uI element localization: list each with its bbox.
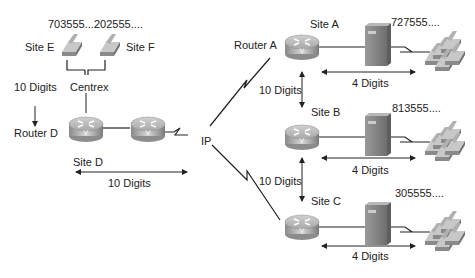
site-f-number: 202555....	[94, 18, 143, 30]
site-b-digits-label: 4 Digits	[352, 164, 389, 176]
pbx-icon-site-a	[365, 23, 391, 66]
pbx-icon-site-c	[365, 202, 391, 245]
site-d-label: Site D	[73, 156, 103, 168]
centrex-bracket	[67, 60, 105, 75]
centrex-label: Centrex	[70, 81, 109, 93]
site-b-label: Site B	[311, 106, 340, 118]
site-a-label: Site A	[310, 18, 339, 30]
phone-icon-site-e	[62, 34, 82, 56]
ip-label: IP	[201, 135, 211, 147]
phone-bank-icon-site-a	[425, 31, 465, 71]
pbx-icon-site-b	[365, 113, 391, 156]
phone-bank-icon-site-c	[425, 211, 465, 251]
router-a-label: Router A	[234, 39, 277, 51]
serial-link-d-ip	[165, 128, 188, 135]
site-e-label: Site E	[25, 41, 54, 53]
router-icon-site-a	[285, 35, 319, 60]
site-a-digits-label: 4 Digits	[352, 77, 389, 89]
site-e-number: 703555....	[48, 18, 97, 30]
site-c-digits-label: 4 Digits	[352, 250, 389, 262]
site-a-number: 727555....	[391, 16, 440, 28]
site-f-label: Site F	[126, 41, 155, 53]
router-d-digits-label: 10 Digits	[14, 81, 57, 93]
phone-icon-site-f	[100, 34, 120, 56]
router-icon-site-c	[285, 215, 319, 240]
phone-bank-icon-site-b	[425, 121, 465, 161]
ab-digits-label: 10 Digits	[259, 84, 302, 96]
router-icon-site-b	[285, 125, 319, 150]
router-icon-site-d-1	[69, 117, 103, 142]
router-d-label: Router D	[14, 127, 58, 139]
router-icon-site-d-2	[131, 117, 165, 142]
bc-digits-label: 10 Digits	[259, 175, 302, 187]
site-c-label: Site C	[311, 195, 341, 207]
site-b-number: 813555....	[392, 102, 441, 114]
site-c-number: 305555....	[395, 187, 444, 199]
site-d-digits-label: 10 Digits	[108, 177, 151, 189]
